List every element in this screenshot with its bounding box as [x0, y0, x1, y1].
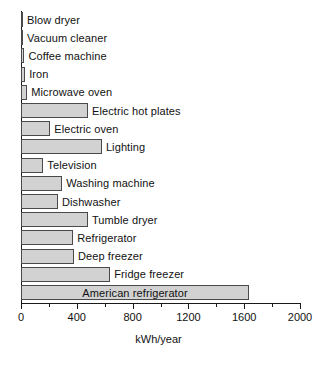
- x-tick-major: [188, 303, 189, 309]
- bar-category-label: Tumble dryer: [88, 214, 158, 225]
- x-tick-minor: [272, 303, 273, 307]
- x-tick-label: 1200: [176, 311, 200, 323]
- bar-category-label: Refrigerator: [73, 232, 136, 243]
- bar-rect: [21, 103, 88, 118]
- x-tick-minor: [49, 303, 50, 307]
- bar-category-label: Fridge freezer: [110, 269, 184, 280]
- bar-rect: [21, 230, 73, 245]
- bar-category-label: Electric oven: [50, 123, 118, 134]
- bar-row: Electric hot plates: [21, 103, 300, 118]
- x-tick-major: [244, 303, 245, 309]
- bar-row: Fridge freezer: [21, 267, 300, 282]
- bar-row: Microwave oven: [21, 85, 300, 100]
- x-tick-major: [77, 303, 78, 309]
- bar-rect: [21, 176, 62, 191]
- bar-row: Electric oven: [21, 121, 300, 136]
- x-tick-major: [300, 303, 301, 309]
- x-tick-label: 800: [123, 311, 141, 323]
- bar-category-label: Coffee machine: [24, 50, 106, 61]
- bar-rect: [21, 121, 50, 136]
- bar-category-label: Washing machine: [62, 178, 155, 189]
- bar-chart: Blow dryerVacuum cleanerCoffee machineIr…: [0, 0, 335, 366]
- bar-row: Vacuum cleaner: [21, 30, 300, 45]
- bar-rect: [21, 212, 88, 227]
- bar-row: Lighting: [21, 139, 300, 154]
- x-tick-major: [21, 303, 22, 309]
- bar-row: Iron: [21, 67, 300, 82]
- bar-rect: [21, 139, 102, 154]
- bar-category-label: Iron: [25, 69, 48, 80]
- x-axis-title: kWh/year: [0, 333, 335, 345]
- bar-row: Refrigerator: [21, 230, 300, 245]
- x-tick-label: 1600: [232, 311, 256, 323]
- bar-category-label: Deep freezer: [74, 251, 143, 262]
- x-tick-minor: [216, 303, 217, 307]
- bar-rect: [21, 267, 110, 282]
- bar-row: American refrigerator: [21, 285, 300, 300]
- bar-category-label: Blow dryer: [23, 14, 80, 25]
- bar-rect: [21, 249, 74, 264]
- bar-category-label: Microwave oven: [27, 87, 112, 98]
- x-tick-minor: [161, 303, 162, 307]
- x-tick-major: [133, 303, 134, 309]
- bar-row: Washing machine: [21, 176, 300, 191]
- x-tick-label: 2000: [288, 311, 312, 323]
- bar-row: Tumble dryer: [21, 212, 300, 227]
- bar-row: Coffee machine: [21, 48, 300, 63]
- bar-category-label: Vacuum cleaner: [23, 32, 107, 43]
- x-axis-title-text: kWh/year: [135, 333, 181, 345]
- bar-category-label: Television: [43, 160, 96, 171]
- bar-row: Dishwasher: [21, 194, 300, 209]
- bar-category-label: Dishwasher: [58, 196, 120, 207]
- bar-category-label: Electric hot plates: [88, 105, 181, 116]
- bar-category-label: American refrigerator: [21, 287, 249, 298]
- bar-row: Deep freezer: [21, 249, 300, 264]
- bar-row: Television: [21, 158, 300, 173]
- bar-category-label: Lighting: [102, 141, 145, 152]
- x-tick-minor: [105, 303, 106, 307]
- bar-rect: [21, 194, 58, 209]
- x-tick-label: 400: [68, 311, 86, 323]
- x-tick-label: 0: [18, 311, 24, 323]
- bar-rect: [21, 158, 43, 173]
- bar-row: Blow dryer: [21, 12, 300, 27]
